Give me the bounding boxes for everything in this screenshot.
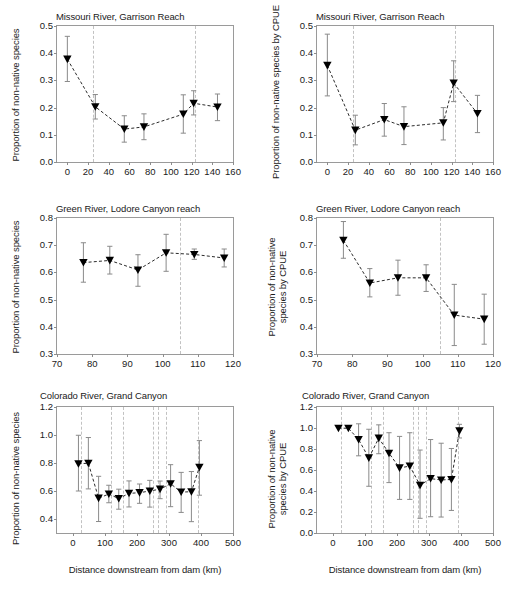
y-axis-title: Proportion of non-native species [10, 212, 21, 362]
x-tick-mark [233, 533, 234, 536]
data-series [57, 26, 233, 162]
data-point-marker [339, 237, 347, 245]
data-point-marker [187, 488, 195, 496]
data-point-marker [146, 487, 154, 495]
data-series [317, 218, 493, 354]
x-tick-label: 100 [415, 359, 431, 369]
x-tick-label: 0 [65, 167, 70, 177]
y-tick-label: 0.2 [29, 103, 53, 113]
data-point-marker [480, 316, 488, 324]
x-tick-mark [171, 162, 172, 165]
y-tick-label: 0.8 [29, 458, 53, 468]
x-tick-mark [493, 533, 494, 536]
data-point-marker [140, 123, 148, 131]
x-tick-mark [327, 162, 328, 165]
y-axis-title: Proportion of non-native species by CPUE [266, 222, 288, 352]
x-tick-mark [472, 162, 473, 165]
x-tick-label: 0 [330, 538, 335, 548]
x-tick-mark [389, 162, 390, 165]
x-tick-mark [397, 533, 398, 536]
y-tick-label: 1.2 [289, 402, 313, 412]
x-tick-mark [129, 162, 130, 165]
plot-area: 0.40.60.81.01.20100200300400500 [56, 406, 234, 534]
y-tick-label: 0.6 [289, 465, 313, 475]
data-point-marker [195, 464, 203, 472]
data-point-marker [385, 450, 393, 458]
y-tick-label: 0.8 [289, 444, 313, 454]
x-tick-mark [127, 354, 128, 357]
x-tick-mark [410, 162, 411, 165]
data-point-marker [125, 490, 133, 498]
x-tick-label: 80 [347, 359, 358, 369]
y-tick-label: 0.3 [289, 76, 313, 86]
x-tick-label: 80 [145, 167, 156, 177]
x-tick-mark [348, 162, 349, 165]
panel-colorado-cpue: Colorado River, Grand Canyon Proportion … [260, 384, 520, 593]
x-tick-mark [201, 533, 202, 536]
y-tick-label: 0.1 [29, 130, 53, 140]
data-point-marker [366, 279, 374, 287]
x-tick-label: 400 [453, 538, 469, 548]
panel-green-cpue: Green River, Lodore Canyon reach Proport… [260, 192, 520, 387]
plot-area: 0.30.40.50.60.70.8708090100110120 [56, 217, 234, 355]
x-tick-mark [163, 354, 164, 357]
x-tick-mark [431, 162, 432, 165]
x-tick-mark [169, 533, 170, 536]
panel-title: Colorado River, Grand Canyon [40, 390, 167, 401]
x-tick-label: 70 [312, 359, 323, 369]
data-series [57, 407, 233, 533]
data-point-marker [105, 491, 113, 499]
data-point-marker [394, 274, 402, 282]
y-tick-label: 0.4 [289, 486, 313, 496]
x-tick-mark [198, 354, 199, 357]
x-tick-label: 100 [423, 167, 439, 177]
x-tick-mark [67, 162, 68, 165]
x-tick-label: 120 [485, 359, 501, 369]
x-axis-title: Distance downstream from dam (km) [316, 564, 494, 575]
y-axis-title: Proportion of non-native species by CPUE [266, 414, 288, 544]
y-tick-label: 0.7 [289, 240, 313, 250]
data-series [317, 407, 493, 533]
x-tick-label: 120 [225, 359, 241, 369]
y-tick-label: 0.8 [289, 213, 313, 223]
x-tick-mark [387, 354, 388, 357]
x-tick-label: 0 [70, 538, 75, 548]
x-tick-label: 300 [421, 538, 437, 548]
data-point-marker [455, 427, 463, 435]
plot-area: 0.00.10.20.30.40.5020406080100120140160 [316, 25, 494, 163]
x-tick-label: 110 [450, 359, 465, 369]
x-tick-label: 40 [103, 167, 114, 177]
x-tick-label: 160 [225, 167, 241, 177]
data-point-marker [115, 495, 123, 503]
y-tick-mark [314, 533, 317, 534]
y-tick-label: 0.4 [289, 322, 313, 332]
data-series [317, 26, 493, 162]
x-tick-mark [352, 354, 353, 357]
y-tick-label: 0.0 [29, 157, 53, 167]
data-point-marker [120, 126, 128, 134]
series-line [83, 253, 224, 270]
x-tick-mark [423, 354, 424, 357]
y-tick-label: 1.0 [29, 430, 53, 440]
y-tick-label: 1.2 [29, 402, 53, 412]
figure-root: Missouri River, Garrison Reach Proportio… [0, 0, 520, 593]
x-tick-mark [137, 533, 138, 536]
y-tick-label: 0.1 [289, 130, 313, 140]
y-axis-title: Proportion of non-native species by CPUE [270, 2, 281, 182]
x-tick-label: 100 [155, 359, 171, 369]
data-point-marker [380, 116, 388, 124]
series-line [327, 65, 477, 130]
data-point-marker [162, 249, 170, 257]
x-tick-mark [192, 162, 193, 165]
data-point-marker [63, 56, 71, 64]
x-tick-label: 120 [184, 167, 200, 177]
y-tick-label: 1.0 [289, 423, 313, 433]
x-tick-label: 70 [52, 359, 63, 369]
y-tick-label: 0.0 [289, 157, 313, 167]
series-line [67, 59, 217, 129]
data-point-marker [135, 489, 143, 497]
y-tick-label: 0.6 [289, 268, 313, 278]
x-tick-label: 400 [193, 538, 209, 548]
x-tick-mark [452, 162, 453, 165]
x-tick-label: 80 [405, 167, 416, 177]
